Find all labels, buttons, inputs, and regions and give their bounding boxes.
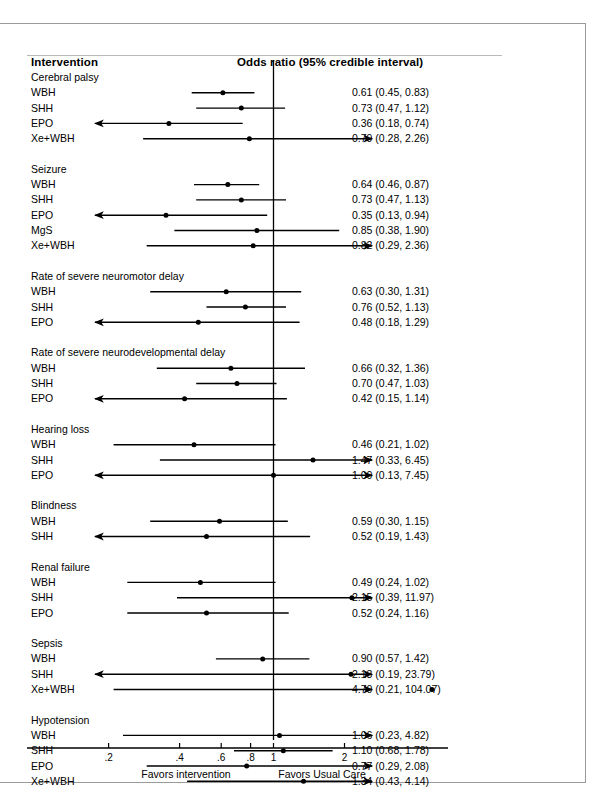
header-divider — [27, 55, 502, 56]
row-label: WBH — [31, 516, 56, 527]
row-label: WBH — [31, 653, 56, 664]
estimate-text: 1.10 (0.68, 1.78) — [352, 745, 429, 756]
x-axis-tick-label: .4 — [175, 752, 183, 763]
row-label: EPO — [31, 317, 53, 328]
estimate-text: 0.52 (0.19, 1.43) — [352, 531, 429, 542]
estimate-text: 0.49 (0.24, 1.02) — [352, 577, 429, 588]
row-label: WBH — [31, 439, 56, 450]
row-label: WBH — [31, 577, 56, 588]
estimate-text: 0.46 (0.21, 1.02) — [352, 439, 429, 450]
row-label: EPO — [31, 470, 53, 481]
x-axis-tick-label: .8 — [246, 752, 254, 763]
estimate-text: 1.47 (0.33, 6.45) — [352, 455, 429, 466]
row-label: WBH — [31, 87, 56, 98]
estimate-text: 0.61 (0.45, 0.83) — [352, 87, 429, 98]
axis-caption-right: Favors Usual Care — [278, 768, 366, 780]
row-label: WBH — [31, 286, 56, 297]
group-label: Renal failure — [31, 562, 90, 573]
row-label: WBH — [31, 730, 56, 741]
estimate-text: 0.63 (0.30, 1.31) — [352, 286, 429, 297]
row-label: SHH — [31, 194, 53, 205]
axis-caption-left: Favors intervention — [141, 768, 230, 780]
x-axis-tick-label: .2 — [104, 752, 112, 763]
estimate-text: 0.79 (0.28, 2.26) — [352, 133, 429, 144]
estimate-text: 0.52 (0.24, 1.16) — [352, 608, 429, 619]
row-label: WBH — [31, 179, 56, 190]
group-label: Sepsis — [31, 638, 63, 649]
table-header: Intervention Odds ratio (95% credible in… — [0, 23, 587, 55]
group-label: Hypotension — [31, 715, 89, 726]
estimate-text: 0.85 (0.38, 1.90) — [352, 225, 429, 236]
estimate-text: 2.13 (0.19, 23.79) — [352, 669, 435, 680]
row-label: SHH — [31, 455, 53, 466]
row-label: Xe+WBH — [31, 684, 74, 695]
row-label: MgS — [31, 225, 53, 236]
row-label: Xe+WBH — [31, 776, 74, 787]
estimate-text: 0.59 (0.30, 1.15) — [352, 516, 429, 527]
group-label: Blindness — [31, 500, 77, 511]
estimate-text: 0.35 (0.13, 0.94) — [352, 210, 429, 221]
row-label: SHH — [31, 669, 53, 680]
row-label: EPO — [31, 118, 53, 129]
row-label: SHH — [31, 378, 53, 389]
estimate-text: 0.73 (0.47, 1.13) — [352, 194, 429, 205]
row-label: EPO — [31, 608, 53, 619]
estimate-text: 0.73 (0.47, 1.12) — [352, 103, 429, 114]
estimate-text: 0.42 (0.15, 1.14) — [352, 393, 429, 404]
estimate-text: 0.70 (0.47, 1.03) — [352, 378, 429, 389]
row-label: EPO — [31, 210, 53, 221]
group-label: Hearing loss — [31, 424, 89, 435]
estimate-text: 1.00 (0.13, 7.45) — [352, 470, 429, 481]
row-label: Xe+WBH — [31, 133, 74, 144]
row-label: SHH — [31, 531, 53, 542]
row-label: SHH — [31, 302, 53, 313]
x-axis-tick-label: .6 — [217, 752, 225, 763]
column-header-intervention: Intervention — [31, 56, 98, 68]
estimate-text: 0.64 (0.46, 0.87) — [352, 179, 429, 190]
row-label: EPO — [31, 393, 53, 404]
estimate-text: 0.76 (0.52, 1.13) — [352, 302, 429, 313]
x-axis-tick-label: 2 — [342, 752, 348, 763]
group-label: Rate of severe neuromotor delay — [31, 271, 184, 282]
row-label: SHH — [31, 745, 53, 756]
column-header-odds-ratio: Odds ratio (95% credible interval) — [237, 56, 423, 68]
estimate-text: 2.15 (0.39, 11.97) — [352, 592, 434, 603]
estimate-text: 0.36 (0.18, 0.74) — [352, 118, 429, 129]
row-label: WBH — [31, 363, 56, 374]
row-label: EPO — [31, 761, 53, 772]
group-label: Cerebral palsy — [31, 72, 99, 83]
row-label: Xe+WBH — [31, 240, 74, 251]
group-label: Seizure — [31, 164, 67, 175]
figure-frame — [0, 23, 586, 783]
estimate-text: 0.48 (0.18, 1.29) — [352, 317, 429, 328]
estimate-text: 1.06 (0.23, 4.82) — [352, 730, 429, 741]
group-label: Rate of severe neurodevelopmental delay — [31, 347, 225, 358]
estimate-text: 4.70 (0.21, 104.07) — [352, 684, 441, 695]
x-axis-tick-label: 1 — [271, 752, 277, 763]
estimate-text: 0.66 (0.32, 1.36) — [352, 363, 429, 374]
row-label: SHH — [31, 103, 53, 114]
estimate-text: 0.82 (0.29, 2.36) — [352, 240, 429, 251]
estimate-text: 0.90 (0.57, 1.42) — [352, 653, 429, 664]
row-label: SHH — [31, 592, 53, 603]
